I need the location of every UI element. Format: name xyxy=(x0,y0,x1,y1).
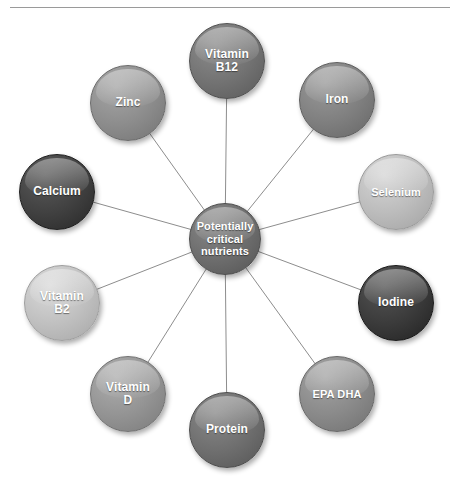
node-vitamin-b12-label-line2: B12 xyxy=(216,60,238,74)
node-vitamin-b12-label-line1: Vitamin xyxy=(205,47,249,61)
node-vitamin-b2[interactable]: VitaminB2 xyxy=(24,265,100,341)
node-iron-label: Iron xyxy=(321,93,352,106)
node-protein-label: Protein xyxy=(202,423,252,436)
node-epa-dha-label-line1: EPA DHA xyxy=(313,388,362,400)
node-epa-dha[interactable]: EPA DHA xyxy=(299,356,375,432)
node-iodine-label-line1: Iodine xyxy=(378,295,414,309)
node-zinc-label: Zinc xyxy=(111,96,144,109)
node-vitamin-d-label-line2: D xyxy=(124,393,133,407)
node-vitamin-d-label-line1: Vitamin xyxy=(106,380,150,394)
connector-line-zinc xyxy=(149,132,205,211)
node-iodine[interactable]: Iodine xyxy=(358,265,434,341)
node-vitamin-d[interactable]: VitaminD xyxy=(90,356,166,432)
node-potentially-critical-nutrients[interactable]: Potentially critical nutrients xyxy=(189,203,261,275)
node-calcium-label: Calcium xyxy=(29,185,84,198)
node-iodine-label: Iodine xyxy=(374,296,418,309)
diagram-canvas: Potentially critical nutrients VitaminB1… xyxy=(0,0,456,489)
connector-line-vitamin-b12 xyxy=(225,97,226,205)
node-calcium-label-line1: Calcium xyxy=(33,184,80,198)
node-vitamin-b12[interactable]: VitaminB12 xyxy=(189,23,265,99)
node-zinc-label-line1: Zinc xyxy=(115,95,140,109)
connector-line-protein xyxy=(225,273,226,394)
connector-line-iodine xyxy=(257,251,362,290)
connector-line-selenium xyxy=(258,202,362,230)
node-protein-label-line1: Protein xyxy=(206,422,248,436)
node-protein[interactable]: Protein xyxy=(189,392,265,468)
node-center-label-line1: Potentially xyxy=(197,220,254,232)
node-center-label-line3: nutrients xyxy=(201,245,249,257)
connector-line-epa-dha xyxy=(245,267,316,365)
connector-line-iron xyxy=(246,128,314,212)
node-iron[interactable]: Iron xyxy=(299,62,375,138)
node-vitamin-b2-label: VitaminB2 xyxy=(36,290,88,317)
node-center-label-line2: critical xyxy=(207,233,243,245)
node-vitamin-b2-label-line2: B2 xyxy=(54,302,70,316)
node-selenium-label: Selenium xyxy=(367,186,425,198)
node-calcium[interactable]: Calcium xyxy=(19,154,95,230)
node-vitamin-b2-label-line1: Vitamin xyxy=(40,289,84,303)
node-epa-dha-label: EPA DHA xyxy=(309,388,366,400)
node-selenium-label-line1: Selenium xyxy=(371,186,421,198)
node-zinc[interactable]: Zinc xyxy=(90,65,166,141)
connector-line-vitamin-d xyxy=(147,268,207,364)
node-vitamin-b12-label: VitaminB12 xyxy=(201,48,253,75)
node-iron-label-line1: Iron xyxy=(325,92,348,106)
node-vitamin-d-label: VitaminD xyxy=(102,381,154,408)
connector-line-calcium xyxy=(92,202,193,230)
node-selenium[interactable]: Selenium xyxy=(358,154,434,230)
node-center-label: Potentially critical nutrients xyxy=(193,220,258,258)
connector-line-vitamin-b2 xyxy=(96,251,194,289)
